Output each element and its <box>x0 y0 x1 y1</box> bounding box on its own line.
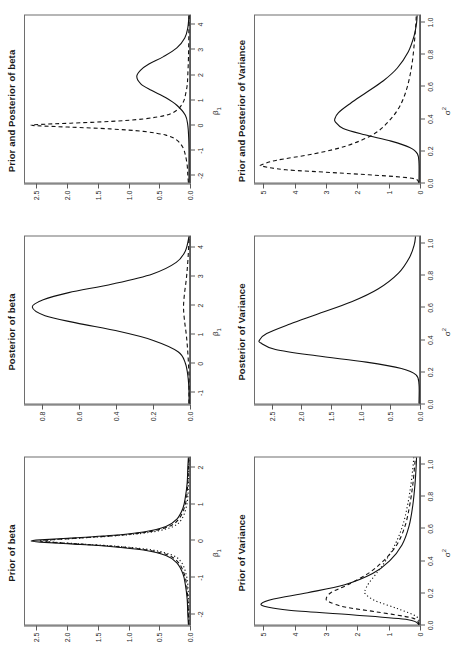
y-tick-label: 2.5 <box>33 632 40 642</box>
x-tick-mark <box>420 118 425 119</box>
y-tick-mark <box>36 625 37 630</box>
x-tick-label: 0 <box>197 539 204 543</box>
x-tick-label: 0 <box>197 361 204 365</box>
y-tick-mark <box>390 404 391 409</box>
x-tick-mark <box>420 403 425 404</box>
curve-prior-dashed <box>40 457 189 624</box>
curve-posterior-solid <box>334 15 419 182</box>
y-tick-label: 2.0 <box>64 632 71 642</box>
plot-area <box>254 14 420 183</box>
x-tick-mark <box>420 242 425 243</box>
x-tick-label: 4 <box>197 245 204 249</box>
y-tick-label: 1.0 <box>357 411 364 421</box>
x-axis-line <box>420 235 421 404</box>
y-tick-mark <box>190 183 191 188</box>
y-tick-label: 3 <box>323 190 330 194</box>
x-tick-label: 0.0 <box>427 399 434 409</box>
x-tick-label: 0.2 <box>427 146 434 156</box>
y-tick-mark <box>389 183 390 188</box>
x-tick-label: -1 <box>197 147 204 153</box>
x-tick-label: -1 <box>197 574 204 580</box>
panel-title: Posterior of Variance <box>236 221 247 442</box>
curve-prior-dotted <box>43 457 189 624</box>
y-tick-label: 5 <box>260 632 267 636</box>
x-tick-mark <box>420 560 425 561</box>
y-tick-mark <box>301 404 302 409</box>
y-tick-mark <box>129 183 130 188</box>
y-tick-label: 0.5 <box>156 632 163 642</box>
x-tick-label: 2 <box>197 73 204 77</box>
x-label-superscript: 2 <box>441 327 447 330</box>
x-tick-label: 0.8 <box>427 270 434 280</box>
x-tick-mark <box>420 182 425 183</box>
x-tick-mark <box>190 48 195 49</box>
y-tick-label: 2.0 <box>298 411 305 421</box>
x-axis-label: β1 <box>211 0 222 221</box>
x-tick-label: 0.6 <box>427 303 434 313</box>
plot-row-beta: Prior of beta 0.00.51.01.52.02.5 -2-1012… <box>0 0 230 663</box>
x-axis: -2-101234 <box>190 14 208 183</box>
x-tick-mark <box>420 274 425 275</box>
panel-title: Prior of Variance <box>236 442 247 663</box>
y-tick-mark <box>263 625 264 630</box>
y-tick-label: 3 <box>323 632 330 636</box>
x-tick-mark <box>420 306 425 307</box>
x-tick-label: 0.0 <box>427 178 434 188</box>
y-tick-label: 0.0 <box>417 411 424 421</box>
curve-prior-solid <box>261 457 419 624</box>
x-axis: -2-1012 <box>190 456 208 625</box>
x-axis-line <box>420 14 421 183</box>
x-tick-label: 0.4 <box>427 114 434 124</box>
plot-area <box>254 235 420 404</box>
x-axis-label: β1 <box>211 442 222 663</box>
curves-svg <box>255 236 419 403</box>
y-tick-mark <box>389 625 390 630</box>
x-label-symbol: β <box>211 331 220 336</box>
x-tick-label: 3 <box>197 47 204 51</box>
x-label-superscript: 2 <box>441 106 447 109</box>
x-tick-label: -2 <box>197 611 204 617</box>
y-tick-mark <box>420 183 421 188</box>
y-tick-mark <box>420 625 421 630</box>
x-tick-label: -2 <box>197 172 204 178</box>
panel-prior-and-posterior-of-variance: Prior and Posterior of Variance 012345 0… <box>230 0 460 221</box>
y-tick-mark <box>42 404 43 409</box>
panel-posterior-of-variance: Posterior of Variance 0.00.51.01.52.02.5… <box>230 221 460 442</box>
y-tick-mark <box>67 183 68 188</box>
x-tick-mark <box>190 503 195 504</box>
x-tick-label: 1 <box>197 502 204 506</box>
y-tick-label: 0.5 <box>387 411 394 421</box>
x-tick-label: 1.0 <box>427 17 434 27</box>
y-tick-label: 0.0 <box>187 632 194 642</box>
curves-svg <box>25 236 189 403</box>
y-axis: 012345 <box>254 625 420 657</box>
x-axis-label: σ2 <box>441 442 452 663</box>
y-tick-mark <box>357 625 358 630</box>
y-tick-label: 2.5 <box>268 411 275 421</box>
x-tick-mark <box>420 592 425 593</box>
x-tick-label: 2 <box>197 303 204 307</box>
y-tick-label: 1.0 <box>125 632 132 642</box>
plot-area <box>24 456 190 625</box>
x-tick-mark <box>190 304 195 305</box>
x-tick-label: 0.4 <box>427 335 434 345</box>
y-axis-line <box>24 404 190 405</box>
panel-title: Posterior of beta <box>6 221 17 442</box>
y-tick-label: 0.0 <box>187 411 194 421</box>
y-tick-label: 0.6 <box>76 411 83 421</box>
x-tick-mark <box>190 613 195 614</box>
x-tick-mark <box>190 391 195 392</box>
x-label-symbol: β <box>211 110 220 115</box>
x-tick-label: 0.6 <box>427 524 434 534</box>
curves-svg <box>25 457 189 624</box>
curve-posterior-solid <box>32 236 189 403</box>
x-tick-label: 1.0 <box>427 459 434 469</box>
panel-title: Prior of beta <box>6 442 17 663</box>
x-tick-mark <box>420 150 425 151</box>
y-tick-label: 0.0 <box>187 190 194 200</box>
x-label-subscript: 1 <box>216 549 222 552</box>
y-axis: 0.00.51.01.52.02.5 <box>254 404 420 436</box>
y-axis: 0.00.51.01.52.02.5 <box>24 183 190 215</box>
x-tick-mark <box>190 540 195 541</box>
x-tick-label: 1 <box>197 98 204 102</box>
